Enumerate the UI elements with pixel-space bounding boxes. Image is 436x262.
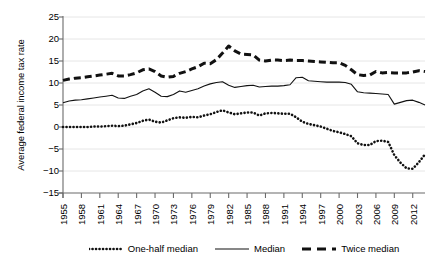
chart-figure: Average federal income tax rate 25201510…: [0, 0, 436, 262]
legend-label: Twice median: [341, 244, 399, 254]
chart-legend: One-half medianMedianTwice median: [63, 240, 425, 258]
series-line-solid: [63, 77, 425, 105]
legend-item[interactable]: Median: [215, 244, 285, 254]
legend-item[interactable]: Twice median: [302, 244, 399, 254]
series-line-dotted: [63, 110, 425, 169]
legend-swatch-dotted-icon: [89, 244, 123, 254]
legend-item[interactable]: One-half median: [89, 244, 198, 254]
plot-area: [0, 0, 436, 262]
legend-label: Median: [254, 244, 285, 254]
legend-swatch-dashed-icon: [302, 244, 336, 254]
legend-label: One-half median: [128, 244, 198, 254]
legend-swatch-solid-icon: [215, 244, 249, 254]
series-line-dashed: [63, 46, 425, 80]
